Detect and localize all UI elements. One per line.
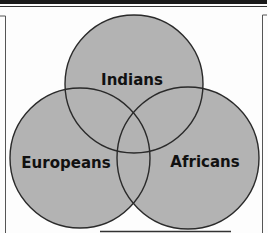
left-frame-line [0,16,6,233]
venn-diagram: Indians Europeans Africans [0,0,267,233]
right-frame-line [263,15,268,233]
indians-label: Indians [101,71,163,89]
venn-diagram-figure: Indians Europeans Africans [0,0,267,233]
top-border-band [0,0,267,4]
europeans-label: Europeans [21,154,110,172]
africans-label: Africans [170,153,239,171]
venn-fills [10,15,259,229]
